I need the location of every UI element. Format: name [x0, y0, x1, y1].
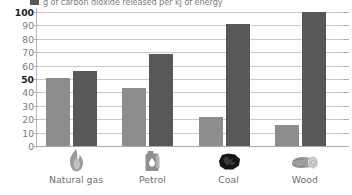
y-tickmark-right-20: [343, 119, 349, 120]
y-tick-label-10: 10: [6, 128, 34, 137]
legend-label: g of carbon dioxide released per kJ of e…: [43, 0, 223, 7]
y-tickmark-right-60: [343, 66, 349, 67]
chart-legend: g of carbon dioxide released per kJ of e…: [30, 0, 223, 7]
flame-icon: [63, 148, 89, 174]
x-axis-categories: Natural gasPetrolCoalWood: [38, 148, 343, 195]
bar-chart: g of carbon dioxide released per kJ of e…: [0, 0, 352, 195]
y-axis-spine: [36, 8, 37, 148]
category-label: Coal: [218, 174, 239, 185]
y-tick-label-60: 60: [6, 61, 34, 70]
y-tickmark-right-90: [343, 25, 349, 26]
category-natural-gas: Natural gas: [37, 148, 115, 185]
bar-natural-gas-series-light: [46, 78, 70, 146]
y-tickmark-right-80: [343, 39, 349, 40]
y-axis: 1009080706050403020100: [2, 12, 34, 146]
category-petrol: Petrol: [113, 148, 191, 185]
y-tick-label-100: 100: [6, 8, 34, 17]
category-label: Petrol: [139, 174, 166, 185]
bar-group-petrol: [122, 12, 173, 146]
category-label: Natural gas: [49, 174, 103, 185]
y-tick-label-50: 50: [6, 75, 34, 84]
bar-wood-series-dark: [302, 12, 326, 146]
y-tick-label-80: 80: [6, 34, 34, 43]
gridline-0: [38, 146, 343, 147]
y-tick-label-30: 30: [6, 101, 34, 110]
y-tickmark-right-70: [343, 52, 349, 53]
category-wood: Wood: [266, 148, 344, 185]
coal-lump-icon: [215, 148, 243, 174]
category-label: Wood: [292, 174, 318, 185]
y-tick-label-40: 40: [6, 88, 34, 97]
bars-layer: [38, 12, 343, 146]
bar-coal-series-dark: [226, 24, 250, 146]
category-coal: Coal: [190, 148, 268, 185]
log-icon: [289, 148, 321, 174]
y-tickmark-right-0: [343, 146, 349, 147]
bar-petrol-series-dark: [149, 54, 173, 146]
legend-swatch-icon: [30, 0, 39, 5]
y-tickmark-right-50: [343, 79, 349, 80]
y-tickmark-right-40: [343, 92, 349, 93]
y-tickmark-right-30: [343, 106, 349, 107]
bar-petrol-series-light: [122, 88, 146, 146]
bar-wood-series-light: [275, 125, 299, 146]
y-tickmark-right-10: [343, 133, 349, 134]
y-tick-label-0: 0: [6, 142, 34, 151]
bar-coal-series-light: [199, 117, 223, 146]
bar-group-wood: [275, 12, 326, 146]
y-tickmark-right-100: [343, 12, 349, 13]
y-tick-label-20: 20: [6, 115, 34, 124]
bar-group-coal: [199, 12, 250, 146]
y-tick-label-70: 70: [6, 48, 34, 57]
jerry-can-icon: [139, 148, 165, 174]
y-tick-label-90: 90: [6, 21, 34, 30]
bar-natural-gas-series-dark: [73, 71, 97, 146]
bar-group-natural-gas: [46, 12, 97, 146]
